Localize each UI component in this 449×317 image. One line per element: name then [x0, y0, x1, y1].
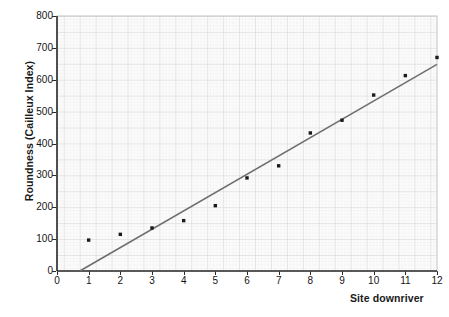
data-point	[182, 219, 185, 222]
data-point	[372, 93, 375, 96]
data-point	[340, 119, 343, 122]
data-point	[309, 131, 312, 134]
data-point	[245, 176, 248, 179]
data-point	[435, 56, 438, 59]
plot-gridlines	[57, 16, 437, 271]
data-point	[119, 233, 122, 236]
scatter-chart: Roundness (Cailleux Index) Site downrive…	[0, 0, 449, 317]
data-point	[214, 204, 217, 207]
data-point	[277, 164, 280, 167]
data-point	[87, 238, 90, 241]
plot-area	[0, 0, 449, 317]
data-point	[150, 226, 153, 229]
data-point	[404, 74, 407, 77]
